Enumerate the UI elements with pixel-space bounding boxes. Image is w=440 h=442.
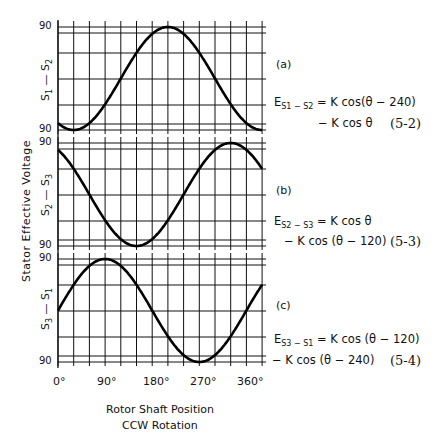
equation-rhs: = K cos (θ − 120) <box>317 332 419 346</box>
panel-b-equation-number: (5-3) <box>390 234 421 249</box>
equation-rhs: = K cos(θ − 240) <box>317 95 416 109</box>
panel-c-equation-line2: − K cos (θ − 240) <box>272 353 374 367</box>
panel-a-tag: (a) <box>276 58 291 71</box>
panel-a-y-top-label: 90 <box>39 20 52 31</box>
panel-c-tag: (c) <box>276 299 291 312</box>
x-tick-90: 90° <box>97 375 117 388</box>
x-tick-270: 270° <box>190 375 217 388</box>
panel-c-equation-number: (5-4) <box>390 353 421 368</box>
panel-b-y-top-label: 90 <box>39 136 52 147</box>
panel-b-tag: (b) <box>276 184 292 197</box>
panel-b-equation-line2: − K cos (θ − 120) <box>284 234 386 248</box>
panel-b-axis-label: S2 — S3 <box>39 174 54 216</box>
equation-subscript: S1 − S2 <box>281 102 313 111</box>
x-tick-360: 360° <box>237 375 264 388</box>
chart-canvas <box>0 0 440 442</box>
panel-a-equation-number: (5-2) <box>390 116 421 131</box>
x-axis-label: Rotor Shaft Position <box>106 403 214 416</box>
equation-rhs: = K cos θ <box>317 214 372 228</box>
equation-subscript: S3 − S1 <box>281 339 313 348</box>
panel-a-y-bottom-label: 90 <box>39 123 52 134</box>
x-axis-sublabel: CCW Rotation <box>122 419 198 432</box>
panel-c-equation-line1: ES3 − S1 = K cos (θ − 120) <box>274 332 419 348</box>
panel-c-y-top-label: 90 <box>39 252 52 263</box>
x-tick-0: 0° <box>53 375 66 388</box>
panel-c-y-bottom-label: 90 <box>39 355 52 366</box>
panel-c-axis-label: S3 — S1 <box>39 288 54 330</box>
equation-subscript: S2 − S3 <box>281 221 313 230</box>
panel-a-axis-label: S1 — S2 <box>39 59 54 101</box>
y-axis-label: Stator Effective Voltage <box>20 140 33 282</box>
panel-b-equation-line1: ES2 − S3 = K cos θ <box>274 214 372 230</box>
x-tick-180: 180° <box>143 375 170 388</box>
panel-a-equation-line1: ES1 − S2 = K cos(θ − 240) <box>274 95 416 111</box>
panel-b-y-bottom-label: 90 <box>39 239 52 250</box>
panel-a-equation-line2: − K cos θ <box>318 116 373 130</box>
